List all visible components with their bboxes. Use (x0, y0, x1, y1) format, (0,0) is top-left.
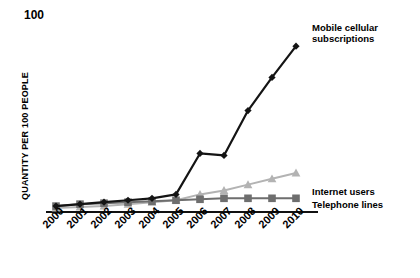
series-label-internet: Internet users (312, 186, 375, 197)
series-label-mobile-line2: subscriptions (312, 33, 378, 44)
series-label-telephone: Telephone lines (312, 199, 383, 210)
data-point (220, 195, 228, 203)
series-label-mobile-line1: Mobile cellular (312, 22, 378, 33)
data-point (268, 195, 276, 203)
data-point (292, 195, 300, 203)
chart-container: QUANTITY PER 100 PEOPLE 100 0 2000200120… (0, 0, 420, 278)
data-point (292, 169, 301, 177)
series-label-mobile: Mobile cellular subscriptions (312, 22, 378, 44)
data-point (244, 195, 252, 203)
series-mobile-cellular-subscriptions (52, 43, 299, 210)
series-layer (52, 43, 301, 212)
data-point (196, 195, 204, 203)
